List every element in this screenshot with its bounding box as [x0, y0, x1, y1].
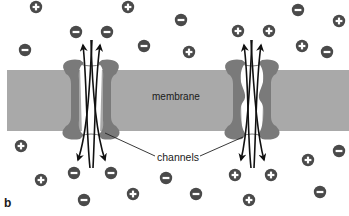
positive-ion-icon [15, 140, 27, 152]
positive-ion-icon [229, 169, 241, 181]
positive-ion-icon [263, 25, 275, 37]
positive-ion-icon [265, 169, 277, 181]
panel-label: b [4, 196, 11, 210]
ion-channel-diagram: membrane channels b [0, 0, 349, 216]
negative-ion-icon [160, 172, 172, 184]
positive-ion-icon [35, 174, 47, 186]
positive-ion-icon [296, 40, 308, 52]
diagram-canvas [0, 0, 349, 216]
positive-ion-icon [122, 1, 134, 13]
negative-ion-icon [101, 26, 113, 38]
channels-leader-left [105, 133, 155, 156]
positive-ion-icon [333, 15, 345, 27]
positive-ion-icon [30, 1, 42, 13]
positive-ion-icon [302, 154, 314, 166]
negative-ion-icon [292, 4, 304, 16]
negative-ion-icon [314, 186, 326, 198]
negative-ion-icon [333, 145, 345, 157]
channels-leader-right [200, 137, 243, 156]
negative-ion-icon [321, 46, 333, 58]
positive-ion-icon [127, 188, 139, 200]
negative-ion-icon [78, 194, 90, 206]
positive-ion-icon [232, 25, 244, 37]
negative-ion-icon [68, 167, 80, 179]
negative-ion-icon [105, 167, 117, 179]
negative-ion-icon [19, 44, 31, 56]
channels-label: channels [157, 151, 199, 163]
negative-ion-icon [175, 14, 187, 26]
positive-ion-icon [243, 194, 255, 206]
negative-ion-icon [190, 188, 202, 200]
positive-ion-icon [183, 46, 195, 58]
left-channel [62, 40, 119, 168]
membrane-label: membrane [152, 91, 200, 102]
negative-ion-icon [138, 40, 150, 52]
negative-ion-icon [70, 26, 82, 38]
